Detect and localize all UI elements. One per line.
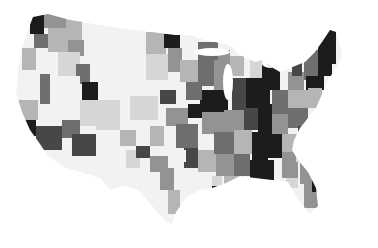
map-region[interactable] bbox=[166, 108, 188, 126]
map-region[interactable] bbox=[234, 130, 252, 154]
map-region[interactable] bbox=[286, 178, 298, 188]
map-region[interactable] bbox=[40, 74, 50, 104]
map-region[interactable] bbox=[250, 160, 274, 180]
map-region[interactable] bbox=[82, 82, 98, 102]
map-region[interactable] bbox=[164, 34, 180, 48]
map-region[interactable] bbox=[318, 30, 336, 64]
map-region[interactable] bbox=[224, 110, 244, 132]
map-region[interactable] bbox=[212, 186, 224, 192]
map-region[interactable] bbox=[146, 54, 168, 80]
map-region[interactable] bbox=[168, 190, 180, 214]
map-region[interactable] bbox=[160, 168, 174, 190]
map-region[interactable] bbox=[298, 126, 314, 146]
map-region[interactable] bbox=[288, 108, 308, 128]
map-region[interactable] bbox=[234, 154, 250, 176]
map-region[interactable] bbox=[96, 100, 120, 130]
map-region[interactable] bbox=[224, 176, 244, 188]
map-region[interactable] bbox=[30, 14, 44, 34]
map-region[interactable] bbox=[200, 172, 212, 190]
map-region[interactable] bbox=[302, 50, 318, 62]
map-region[interactable] bbox=[150, 126, 164, 146]
map-region[interactable] bbox=[80, 100, 96, 126]
map-region[interactable] bbox=[282, 134, 298, 152]
map-region[interactable] bbox=[180, 60, 198, 82]
map-region[interactable] bbox=[296, 146, 310, 162]
map-region[interactable] bbox=[22, 48, 36, 70]
map-region[interactable] bbox=[200, 90, 228, 112]
map-region[interactable] bbox=[306, 76, 324, 90]
lake-shape bbox=[262, 60, 282, 68]
map-region[interactable] bbox=[258, 104, 272, 132]
map-region[interactable] bbox=[272, 90, 288, 114]
map-regions bbox=[16, 14, 342, 224]
map-region[interactable] bbox=[214, 132, 234, 154]
map-region[interactable] bbox=[98, 30, 146, 86]
map-region[interactable] bbox=[36, 126, 62, 150]
map-region[interactable] bbox=[308, 88, 322, 108]
map-region[interactable] bbox=[44, 14, 66, 28]
map-region[interactable] bbox=[202, 112, 224, 134]
map-region[interactable] bbox=[34, 34, 48, 48]
map-region[interactable] bbox=[18, 100, 38, 120]
map-region[interactable] bbox=[198, 150, 216, 172]
map-region[interactable] bbox=[184, 148, 198, 168]
map-container bbox=[0, 0, 378, 248]
map-region[interactable] bbox=[282, 152, 298, 178]
map-region[interactable] bbox=[188, 104, 202, 118]
map-region[interactable] bbox=[160, 90, 176, 104]
map-region[interactable] bbox=[50, 76, 80, 106]
map-region[interactable] bbox=[304, 184, 318, 208]
map-region[interactable] bbox=[176, 150, 186, 162]
map-region[interactable] bbox=[252, 132, 268, 160]
map-region[interactable] bbox=[198, 60, 214, 86]
map-region[interactable] bbox=[318, 62, 332, 76]
map-region[interactable] bbox=[72, 134, 98, 156]
map-region[interactable] bbox=[292, 62, 302, 76]
map-region[interactable] bbox=[272, 114, 288, 134]
map-region[interactable] bbox=[48, 28, 68, 52]
map-region[interactable] bbox=[66, 18, 82, 40]
map-region[interactable] bbox=[312, 172, 318, 192]
map-region[interactable] bbox=[244, 108, 258, 130]
map-region[interactable] bbox=[232, 90, 246, 110]
lake-shape bbox=[194, 48, 230, 56]
map-region[interactable] bbox=[136, 146, 150, 158]
map-region[interactable] bbox=[300, 160, 314, 184]
map-region[interactable] bbox=[120, 130, 136, 146]
map-region[interactable] bbox=[168, 48, 182, 72]
lake-shape bbox=[223, 64, 233, 100]
map-region[interactable] bbox=[22, 120, 36, 136]
map-region[interactable] bbox=[146, 32, 166, 54]
map-region[interactable] bbox=[268, 132, 282, 158]
map-region[interactable] bbox=[288, 90, 308, 108]
map-region[interactable] bbox=[216, 154, 234, 176]
map-region[interactable] bbox=[130, 96, 158, 120]
map-region[interactable] bbox=[176, 124, 198, 148]
map-region[interactable] bbox=[20, 70, 40, 100]
us-choropleth-map[interactable] bbox=[0, 0, 378, 248]
